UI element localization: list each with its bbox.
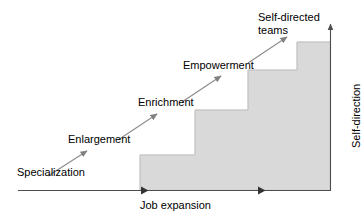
stage-label-enlargement: Enlargement [68,133,130,146]
stage-label-self-directed: Self-directed [258,11,320,24]
y-axis-title: Self-direction [350,84,362,148]
figure-canvas [0,0,362,218]
stage-label-self-directed-line2: teams [258,24,288,37]
job-design-staircase-figure: Specialization Enlargement Enrichment Em… [0,0,362,218]
stage-label-empowerment: Empowerment [183,59,254,72]
stage-label-enrichment: Enrichment [138,96,194,109]
x-axis-title: Job expansion [140,199,211,211]
stage-label-specialization: Specialization [17,166,85,179]
